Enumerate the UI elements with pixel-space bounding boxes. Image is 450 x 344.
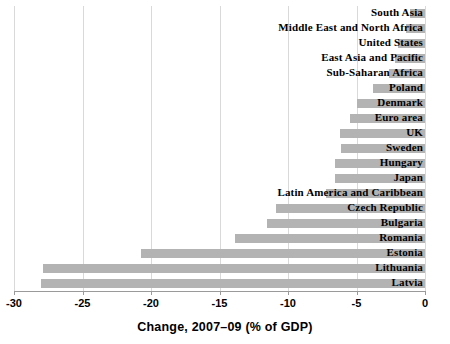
bar-row: Sub-Saharan Africa <box>14 66 425 81</box>
x-axis-tick-label: -20 <box>143 297 159 309</box>
x-axis-tick-mark <box>288 291 289 295</box>
bar-row: Latin America and Caribbean <box>14 186 425 201</box>
bar-row: Czech Republic <box>14 201 425 216</box>
bar-row: South Asia <box>14 6 425 21</box>
bar <box>141 249 425 258</box>
x-axis-tick-mark <box>83 291 84 295</box>
bar-row: UK <box>14 126 425 141</box>
bar-category-label: Middle East and North Africa <box>278 20 423 35</box>
bar-row: Japan <box>14 171 425 186</box>
bar-category-label: Romania <box>379 230 423 245</box>
bar-category-label: Bulgaria <box>381 215 423 230</box>
bar-category-label: Hungary <box>380 155 423 170</box>
bar-row: Romania <box>14 231 425 246</box>
x-axis-tick-mark <box>357 291 358 295</box>
bar-category-label: Sub-Saharan Africa <box>326 65 423 80</box>
x-axis-tick-mark <box>14 291 15 295</box>
bar-category-label: Japan <box>394 170 424 185</box>
bar-category-label: Denmark <box>377 95 423 110</box>
bar-row: Hungary <box>14 156 425 171</box>
bar <box>43 264 425 273</box>
bar-category-label: East Asia and Pacific <box>321 50 423 65</box>
bar-row: East Asia and Pacific <box>14 51 425 66</box>
bar-row: Euro area <box>14 111 425 126</box>
x-axis-tick-mark <box>220 291 221 295</box>
x-axis-tick-label: 0 <box>422 297 428 309</box>
bar-row: Bulgaria <box>14 216 425 231</box>
bar-category-label: South Asia <box>371 5 423 20</box>
bar-chart: South AsiaMiddle East and North AfricaUn… <box>0 0 450 344</box>
plot-area: South AsiaMiddle East and North AfricaUn… <box>14 6 425 291</box>
bar-category-label: Lithuania <box>375 260 423 275</box>
bar-category-label: UK <box>406 125 423 140</box>
bar-row: United States <box>14 36 425 51</box>
bar-category-label: United States <box>358 35 423 50</box>
bar-category-label: Poland <box>389 80 423 95</box>
gridline <box>425 6 426 291</box>
x-axis-title: Change, 2007–09 (% of GDP) <box>0 320 450 334</box>
bar-category-label: Estonia <box>386 245 423 260</box>
bar-row: Latvia <box>14 276 425 291</box>
bar-series: South AsiaMiddle East and North AfricaUn… <box>14 6 425 291</box>
x-axis-tick-label: -5 <box>352 297 362 309</box>
bar-category-label: Euro area <box>375 110 423 125</box>
bar-row: Lithuania <box>14 261 425 276</box>
x-axis-tick-label: -30 <box>6 297 22 309</box>
bar-category-label: Latvia <box>392 275 423 290</box>
bar-row: Estonia <box>14 246 425 261</box>
x-axis-tick-label: -10 <box>280 297 296 309</box>
bar-row: Denmark <box>14 96 425 111</box>
x-axis-tick-mark <box>151 291 152 295</box>
bar-row: Sweden <box>14 141 425 156</box>
bar-row: Middle East and North Africa <box>14 21 425 36</box>
bar-category-label: Sweden <box>386 140 423 155</box>
x-axis-tick-label: -15 <box>212 297 228 309</box>
x-axis-tick-mark <box>425 291 426 295</box>
bar-row: Poland <box>14 81 425 96</box>
bar-category-label: Czech Republic <box>347 200 423 215</box>
x-axis-tick-label: -25 <box>75 297 91 309</box>
bar-category-label: Latin America and Caribbean <box>277 185 423 200</box>
bar <box>41 279 425 288</box>
